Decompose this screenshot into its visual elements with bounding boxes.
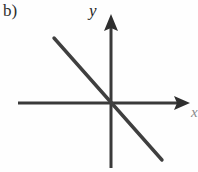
y-axis-label: y [89, 2, 97, 20]
x-axis-label: x [191, 103, 198, 121]
coordinate-plot-svg [0, 0, 198, 172]
figure-panel: b) y x [0, 0, 198, 172]
plot-line-negative-slope [54, 38, 162, 160]
